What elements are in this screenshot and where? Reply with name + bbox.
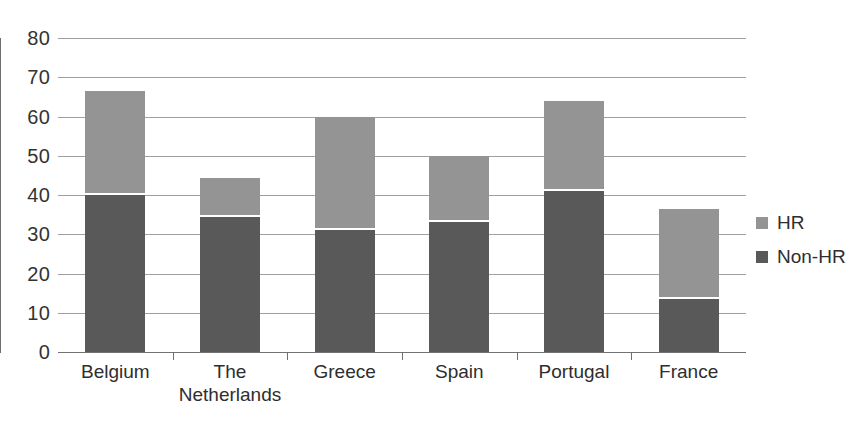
legend-swatch-icon	[756, 251, 768, 263]
x-axis-tick-label: Greece	[287, 360, 402, 383]
bar-segment-non-hr[interactable]	[544, 191, 604, 352]
legend-item[interactable]: Non-HR	[756, 240, 860, 274]
bar-segment-hr[interactable]	[659, 209, 719, 297]
y-axis-tick-label: 60	[27, 105, 50, 128]
x-axis-tick	[631, 352, 632, 360]
x-axis-tick-label: Belgium	[58, 360, 173, 383]
y-axis-tick-label: 30	[27, 223, 50, 246]
bar-segment-hr[interactable]	[200, 178, 260, 215]
y-axis-tick-label: 20	[27, 262, 50, 285]
x-axis-tick-labels: BelgiumThe NetherlandsGreeceSpainPortuga…	[58, 360, 746, 420]
y-axis-tick-labels: 01020304050607080	[0, 38, 50, 352]
gridline	[58, 234, 746, 235]
bar-segment-hr[interactable]	[544, 101, 604, 189]
legend-item[interactable]: HR	[756, 206, 860, 240]
bar-column[interactable]	[315, 38, 375, 352]
bar-segment-non-hr[interactable]	[85, 195, 145, 352]
legend-label: Non-HR	[777, 246, 846, 268]
y-axis-tick-label: 40	[27, 184, 50, 207]
gridline	[58, 195, 746, 196]
gridline	[58, 38, 746, 39]
y-axis-tick-label: 50	[27, 144, 50, 167]
x-axis-tick	[287, 352, 288, 360]
legend-swatch-icon	[756, 217, 768, 229]
y-axis-tick-label: 0	[39, 341, 50, 364]
bar-segment-non-hr[interactable]	[429, 222, 489, 352]
bar-column[interactable]	[544, 38, 604, 352]
x-axis-tick-label: France	[631, 360, 746, 383]
x-axis-tick	[173, 352, 174, 360]
gridline	[58, 117, 746, 118]
legend-label: HR	[777, 212, 804, 234]
x-axis-tick-label: Portugal	[517, 360, 632, 383]
gridline	[58, 156, 746, 157]
gridline	[58, 274, 746, 275]
stacked-bar-chart: 01020304050607080 BelgiumThe Netherlands…	[0, 0, 863, 448]
x-axis-tick	[517, 352, 518, 360]
y-axis-tick-label: 10	[27, 301, 50, 324]
x-axis-tick-label: Spain	[402, 360, 517, 383]
chart-legend: HRNon-HR	[756, 206, 860, 274]
y-axis-spine	[0, 38, 1, 353]
bar-segment-hr[interactable]	[429, 156, 489, 220]
gridline	[58, 77, 746, 78]
bar-column[interactable]	[85, 38, 145, 352]
y-axis-tick-label: 70	[27, 66, 50, 89]
gridline	[58, 313, 746, 314]
bar-segment-non-hr[interactable]	[315, 230, 375, 352]
bar-segment-non-hr[interactable]	[200, 217, 260, 352]
x-axis-spine	[58, 352, 746, 353]
plot-area	[58, 38, 746, 352]
bar-column[interactable]	[659, 38, 719, 352]
bar-segment-hr[interactable]	[85, 91, 145, 193]
x-axis-tick-label: The Netherlands	[173, 360, 288, 406]
bar-segment-non-hr[interactable]	[659, 299, 719, 352]
x-axis-tick	[402, 352, 403, 360]
y-axis-tick-label: 80	[27, 27, 50, 50]
bar-column[interactable]	[200, 38, 260, 352]
bar-column[interactable]	[429, 38, 489, 352]
bar-segment-hr[interactable]	[315, 117, 375, 228]
